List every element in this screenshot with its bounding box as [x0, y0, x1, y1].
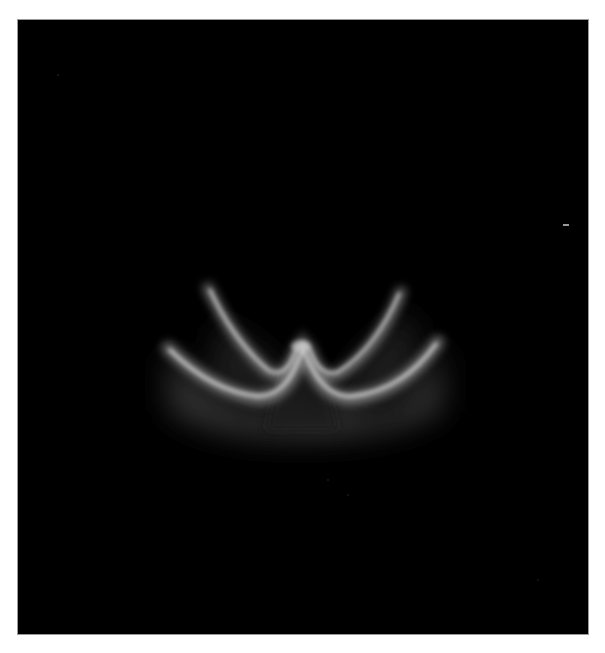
- faint-speck: [327, 479, 329, 481]
- faint-speck: [347, 494, 349, 496]
- glow-bands-figure: [18, 20, 588, 634]
- faint-speck: [57, 74, 59, 76]
- image-frame: [18, 20, 588, 634]
- peak-highlight: [291, 340, 311, 352]
- bright-speck: [563, 224, 569, 226]
- faint-speck: [537, 579, 539, 581]
